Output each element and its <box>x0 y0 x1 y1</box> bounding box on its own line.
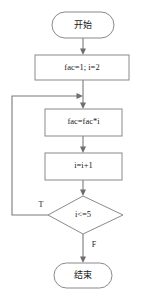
connector-decision-to-end <box>80 234 86 263</box>
branch-label-true: T <box>39 200 44 209</box>
node-start: 开始 <box>52 12 114 38</box>
branch-label-false: F <box>92 240 97 249</box>
node-decision-label: i<=5 <box>75 209 91 219</box>
connector-junction-to-multiply <box>80 96 86 109</box>
flowchart-canvas: 开始 fac=1; i=2 fac=fac*i i=i+1 i<=5 结束 T <box>0 0 141 302</box>
node-init: fac=1; i=2 <box>35 55 129 80</box>
node-start-label: 开始 <box>74 19 92 30</box>
node-increment-label: i=i+1 <box>74 160 93 170</box>
node-end-label: 结束 <box>74 269 92 280</box>
node-decision: i<=5 <box>48 196 123 234</box>
connector-increment-to-decision <box>80 180 86 196</box>
node-increment: i=i+1 <box>45 153 122 180</box>
flowchart-diagram: 开始 fac=1; i=2 fac=fac*i i=i+1 i<=5 结束 T <box>0 0 141 302</box>
node-end: 结束 <box>54 263 112 288</box>
connector-multiply-to-increment <box>80 136 86 153</box>
node-multiply-label: fac=fac*i <box>67 116 100 126</box>
node-init-label: fac=1; i=2 <box>64 62 99 72</box>
node-multiply: fac=fac*i <box>45 109 122 136</box>
connector-start-to-init <box>80 38 86 55</box>
